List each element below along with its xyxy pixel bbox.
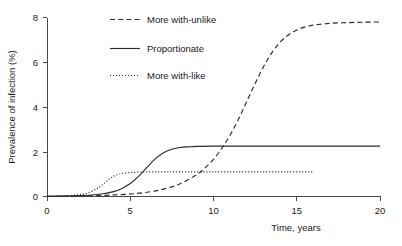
line-chart: 0 2 4 6 8 0 5 10 15 20 Prevalence of inf… bbox=[0, 0, 402, 246]
y-axis-tick-labels: 0 2 4 6 8 bbox=[33, 12, 38, 202]
y-tick-label-4: 4 bbox=[33, 102, 38, 113]
x-tick-label-15: 15 bbox=[291, 205, 302, 216]
series-group bbox=[47, 22, 380, 196]
y-tick-label-6: 6 bbox=[33, 57, 38, 68]
x-tick-label-20: 20 bbox=[375, 205, 386, 216]
x-tick-label-0: 0 bbox=[44, 205, 49, 216]
y-tick-label-0: 0 bbox=[33, 191, 38, 202]
legend-label-more-with-unlike: More with-unlike bbox=[147, 14, 216, 25]
x-tick-label-10: 10 bbox=[208, 205, 219, 216]
x-axis-title: Time, years bbox=[271, 222, 321, 233]
x-tick-label-5: 5 bbox=[128, 205, 133, 216]
y-tick-label-2: 2 bbox=[33, 147, 38, 158]
legend-label-proportionate: Proportionate bbox=[147, 43, 204, 54]
series-line-more-with-unlike bbox=[47, 22, 380, 196]
y-axis-title: Prevalence of infection (%) bbox=[6, 50, 17, 164]
legend: More with-unlike Proportionate More with… bbox=[110, 14, 216, 81]
y-tick-label-8: 8 bbox=[33, 12, 38, 23]
y-axis-ticks bbox=[43, 18, 47, 197]
x-axis-tick-labels: 0 5 10 15 20 bbox=[44, 205, 385, 216]
figure-container: 0 2 4 6 8 0 5 10 15 20 Prevalence of inf… bbox=[0, 0, 402, 246]
x-axis-ticks bbox=[47, 197, 380, 202]
legend-label-more-with-like: More with-like bbox=[147, 70, 206, 81]
